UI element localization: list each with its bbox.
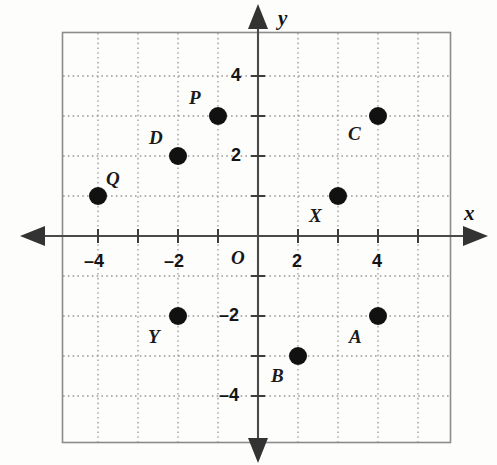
point-label-X: X: [309, 206, 322, 225]
x-axis-label: x: [464, 203, 475, 224]
x-tick-label-neg2: –2: [164, 252, 184, 270]
y-axis: [248, 4, 268, 463]
point-P[interactable]: [209, 107, 227, 125]
plot-canvas: [0, 0, 497, 465]
coordinate-plane-figure: P D Q C X A B Y –4 –2 2 4 4 2 –2 –4 O y …: [0, 0, 497, 465]
point-label-D: D: [149, 128, 163, 147]
point-D[interactable]: [169, 147, 187, 165]
origin-label: O: [231, 248, 245, 267]
y-tick-label-neg4: –4: [219, 386, 239, 404]
x-tick-label-2: 2: [292, 252, 302, 270]
x-axis-left-arrowhead: [20, 226, 45, 246]
y-axis-top-arrowhead: [248, 4, 268, 29]
point-C[interactable]: [369, 107, 387, 125]
y-axis-label: y: [278, 8, 287, 29]
y-tick-label-4: 4: [231, 66, 241, 84]
point-Q[interactable]: [89, 187, 107, 205]
point-label-C: C: [348, 124, 361, 143]
y-axis-bottom-arrowhead: [248, 438, 268, 463]
point-label-P: P: [189, 88, 201, 107]
point-label-A: A: [349, 327, 362, 346]
point-A[interactable]: [369, 307, 387, 325]
y-tick-label-2: 2: [231, 146, 241, 164]
x-tick-label-neg4: –4: [84, 252, 104, 270]
point-B[interactable]: [289, 347, 307, 365]
x-tick-label-4: 4: [372, 252, 382, 270]
point-label-Y: Y: [148, 327, 160, 346]
plot-border: [63, 33, 451, 443]
x-axis-right-arrowhead: [463, 226, 488, 246]
point-label-Q: Q: [106, 169, 120, 188]
point-Y[interactable]: [169, 307, 187, 325]
point-X[interactable]: [329, 187, 347, 205]
point-label-B: B: [271, 366, 284, 385]
y-tick-label-neg2: –2: [219, 306, 239, 324]
